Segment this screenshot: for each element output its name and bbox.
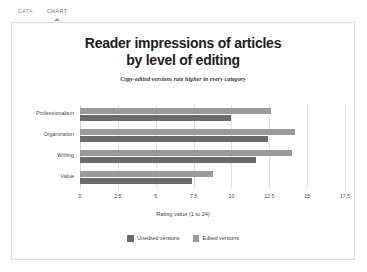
bar-group: Writing bbox=[80, 147, 345, 168]
tab-chart-label: CHART bbox=[47, 8, 67, 14]
gridline bbox=[345, 105, 346, 189]
bar-edited[interactable] bbox=[80, 150, 292, 156]
x-tick-label: 15 bbox=[304, 193, 310, 199]
bar-groups: ProfessionalismOrganizationWritingValue bbox=[80, 105, 345, 189]
legend-swatch-icon bbox=[127, 235, 134, 242]
tab-chart[interactable]: CHART bbox=[45, 8, 69, 16]
bar-edited[interactable] bbox=[80, 108, 271, 114]
category-label: Writing bbox=[57, 152, 74, 158]
legend-item[interactable]: Edited versions bbox=[193, 235, 239, 242]
x-tick-label: 10 bbox=[229, 193, 235, 199]
tab-list: DATA CHART bbox=[12, 8, 355, 16]
x-tick-label: 2.5 bbox=[114, 193, 121, 199]
x-axis-ticks: 02.557.51012.51517.5 bbox=[80, 193, 345, 205]
legend-label: Edited versions bbox=[203, 235, 239, 241]
chart-title-line-2: by level of editing bbox=[126, 52, 240, 68]
chart-title-line-1: Reader impressions of articles bbox=[85, 35, 281, 51]
tab-data-label: DATA bbox=[18, 8, 33, 14]
bar-unedited[interactable] bbox=[80, 115, 231, 121]
bar-unedited[interactable] bbox=[80, 178, 192, 184]
plot-canvas: ProfessionalismOrganizationWritingValue bbox=[80, 105, 345, 189]
category-label: Organization bbox=[43, 131, 74, 137]
x-tick-label: 7.5 bbox=[190, 193, 197, 199]
chart-card: Reader impressions of articles by level … bbox=[11, 22, 355, 260]
x-tick-label: 0 bbox=[79, 193, 82, 199]
category-label: Value bbox=[61, 173, 74, 179]
bar-edited[interactable] bbox=[80, 129, 295, 135]
x-tick-label: 5 bbox=[154, 193, 157, 199]
bar-unedited[interactable] bbox=[80, 136, 268, 142]
bar-group: Professionalism bbox=[80, 105, 345, 126]
chart-subtitle: Copy-edited versions rate higher in ever… bbox=[12, 68, 354, 82]
chart-legend: Unedited versionsEdited versions bbox=[12, 235, 354, 242]
bar-unedited[interactable] bbox=[80, 157, 256, 163]
legend-item[interactable]: Unedited versions bbox=[127, 235, 179, 242]
bar-edited[interactable] bbox=[80, 171, 213, 177]
x-axis-label: Rating value (1 to 24) bbox=[12, 211, 354, 217]
bar-group: Organization bbox=[80, 126, 345, 147]
tab-data[interactable]: DATA bbox=[16, 8, 35, 16]
chart-plot-area: ProfessionalismOrganizationWritingValue … bbox=[12, 101, 354, 261]
chart-title: Reader impressions of articles by level … bbox=[12, 23, 354, 68]
category-label: Professionalism bbox=[36, 110, 74, 116]
legend-label: Unedited versions bbox=[137, 235, 179, 241]
x-tick-label: 12.5 bbox=[264, 193, 274, 199]
x-tick-label: 17.5 bbox=[340, 193, 350, 199]
legend-swatch-icon bbox=[193, 235, 200, 242]
bar-group: Value bbox=[80, 168, 345, 189]
